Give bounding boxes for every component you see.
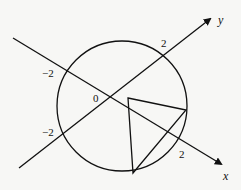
coordinate-diagram: y x 0 2 −2 −2 2 [0,0,241,190]
tick-label-y-pos: 2 [161,37,167,49]
origin-label: 0 [93,92,99,104]
triangle [128,98,186,173]
x-axis-label: x [222,169,229,183]
tick-label-x-neg: −2 [42,67,54,79]
tick-label-x-pos: 2 [179,148,185,160]
y-axis-label: y [217,13,224,27]
x-axis [13,38,221,164]
tick-label-y-neg: −2 [42,126,54,138]
